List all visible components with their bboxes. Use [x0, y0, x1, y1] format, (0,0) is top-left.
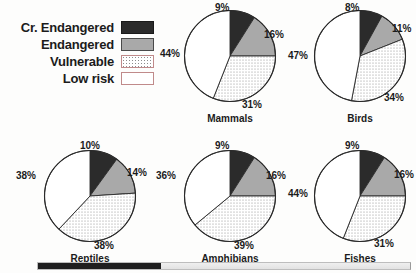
- pct-label-reptiles-endangered: 14%: [127, 167, 147, 178]
- legend-item-cr-endangered: Cr. Endangered: [8, 20, 154, 35]
- figure-canvas: Cr. Endangered Endangered Vulnerable Low…: [0, 0, 416, 273]
- gray-fill-swatch-icon: [121, 38, 154, 51]
- legend-item-vulnerable: Vulnerable: [8, 54, 154, 69]
- pie-slice: [315, 11, 360, 101]
- pct-label-fishes-endangered: 16%: [394, 169, 414, 180]
- pct-label-birds-endangered: 11%: [392, 23, 411, 34]
- black-fill-swatch-icon: [121, 21, 154, 34]
- pie-chart-mammals: 9% 16% 31% 44% Mammals: [182, 8, 278, 126]
- legend-label-cr-endangered: Cr. Endangered: [21, 20, 114, 35]
- scrollbar-thumb[interactable]: [38, 263, 161, 269]
- pct-label-amphibians-vulnerable: 39%: [234, 240, 254, 251]
- pct-label-birds-cr-endangered: 8%: [345, 2, 359, 13]
- pct-label-reptiles-cr-endangered: 10%: [80, 140, 100, 151]
- pie-chart-birds: 8% 11% 34% 47% Birds: [312, 8, 408, 126]
- pct-label-birds-vulnerable: 34%: [384, 92, 404, 103]
- pct-label-mammals-vulnerable: 31%: [242, 99, 262, 110]
- pie-caption-mammals: Mammals: [182, 113, 278, 124]
- pct-label-fishes-cr-endangered: 9%: [345, 140, 359, 151]
- horizontal-scrollbar[interactable]: [37, 262, 411, 270]
- pie-mammals-svg: [182, 8, 278, 104]
- pct-label-fishes-vulnerable: 31%: [374, 238, 394, 249]
- pct-label-fishes-low-risk: 44%: [288, 188, 308, 199]
- legend-item-low-risk: Low risk: [8, 71, 154, 86]
- pie-chart-amphibians: 9% 16% 39% 36% Amphibians: [182, 148, 278, 266]
- pie-chart-reptiles: 10% 14% 38% 38% Reptiles: [42, 148, 138, 266]
- pie-amphibians-svg: [182, 148, 278, 244]
- white-fill-swatch-icon: [121, 72, 154, 85]
- legend-label-endangered: Endangered: [41, 37, 114, 52]
- pct-label-birds-low-risk: 47%: [288, 50, 308, 61]
- pct-label-mammals-low-risk: 44%: [160, 48, 180, 59]
- pct-label-amphibians-cr-endangered: 9%: [215, 140, 229, 151]
- stippled-fill-swatch-icon: [121, 55, 154, 68]
- threat-category-legend: Cr. Endangered Endangered Vulnerable Low…: [8, 20, 154, 88]
- pct-label-reptiles-vulnerable: 38%: [94, 240, 114, 251]
- legend-label-low-risk: Low risk: [63, 71, 114, 86]
- pie-fishes-svg: [312, 148, 408, 244]
- legend-label-vulnerable: Vulnerable: [50, 54, 114, 69]
- pct-label-amphibians-low-risk: 36%: [156, 170, 176, 181]
- pie-caption-birds: Birds: [312, 113, 408, 124]
- pie-reptiles-svg: [42, 148, 138, 244]
- pct-label-mammals-endangered: 16%: [264, 29, 284, 40]
- pct-label-reptiles-low-risk: 38%: [16, 170, 36, 181]
- pct-label-mammals-cr-endangered: 9%: [215, 2, 229, 13]
- pct-label-amphibians-endangered: 16%: [266, 170, 286, 181]
- pie-chart-fishes: 9% 16% 31% 44% Fishes: [312, 148, 408, 266]
- legend-item-endangered: Endangered: [8, 37, 154, 52]
